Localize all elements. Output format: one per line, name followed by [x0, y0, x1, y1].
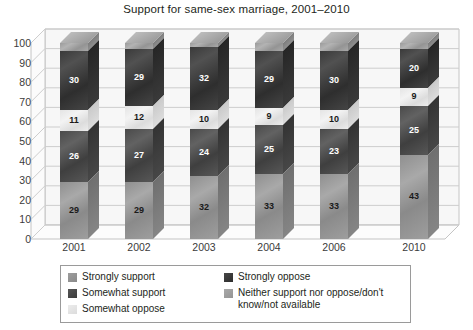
bar-segment[interactable]: 25	[400, 106, 428, 155]
bar-segment[interactable]: 29	[60, 182, 88, 239]
y-axis-tick-label: 30	[5, 175, 31, 186]
x-axis-tick-label: 2002	[109, 241, 169, 253]
bar-value-label: 29	[125, 49, 153, 106]
bar-value-label: 9	[255, 108, 283, 126]
bar-segment-side-face	[218, 165, 229, 239]
bar-segment[interactable]: 43	[400, 155, 428, 239]
chart-legend: Strongly supportStrongly opposeSomewhat …	[60, 265, 411, 323]
bar-value-label: 29	[125, 182, 153, 239]
legend-item-label: Somewhat oppose	[82, 303, 165, 315]
x-axis-tick-label: 2004	[239, 241, 299, 253]
y-axis-ticks: 0102030405060708090100	[0, 0, 31, 262]
bar-value-label: 23	[320, 129, 348, 174]
bar-value-label: 30	[60, 51, 88, 110]
legend-swatch-icon	[224, 273, 233, 282]
bar-segment[interactable]: 11	[60, 110, 88, 132]
bar-value-label: 33	[255, 174, 283, 239]
bar-value-label: 33	[320, 174, 348, 239]
bar-segment-side-face	[218, 36, 229, 110]
bar-segment[interactable]: 27	[125, 129, 153, 182]
legend-swatch-icon	[68, 305, 77, 314]
bar-segment[interactable]: 29	[255, 51, 283, 108]
legend-item-label: Somewhat support	[82, 287, 165, 299]
bar-segment[interactable]: 9	[400, 88, 428, 106]
bar-segment-side-face	[348, 163, 359, 239]
x-axis-tick-label: 2006	[304, 241, 364, 253]
bar-segment[interactable]: 26	[60, 131, 88, 182]
x-axis-tick-label: 2001	[44, 241, 104, 253]
bar-segment-front-face	[255, 43, 283, 51]
bar-segment[interactable]: 9	[255, 108, 283, 126]
bar-segment-side-face	[153, 171, 164, 239]
legend-item[interactable]: Strongly support	[68, 271, 220, 287]
y-axis-tick-label: 90	[5, 58, 31, 69]
y-axis-tick-label: 0	[5, 234, 31, 245]
y-axis-tick-label: 20	[5, 195, 31, 206]
bar-value-label: 25	[400, 106, 428, 155]
legend-item[interactable]: Somewhat support	[68, 287, 220, 303]
bar-segment[interactable]: 30	[60, 51, 88, 110]
bar-segment-side-face	[428, 144, 439, 239]
bar-value-label: 12	[125, 106, 153, 130]
bar-segment-front-face	[320, 43, 348, 51]
bar-segment-side-face	[283, 163, 294, 239]
y-axis-tick-label: 60	[5, 116, 31, 127]
bar-column[interactable]: 32241032	[190, 0, 230, 262]
bar-column[interactable]: 3325929	[255, 0, 295, 262]
bar-segment[interactable]: 25	[255, 125, 283, 174]
legend-item[interactable]: Somewhat oppose	[68, 303, 220, 319]
y-axis-tick-label: 70	[5, 97, 31, 108]
bar-column[interactable]: 4325920	[400, 0, 440, 262]
bar-segment[interactable]: 33	[255, 174, 283, 239]
bar-value-label: 43	[400, 155, 428, 239]
legend-item-label: Neither support nor oppose/don't know/no…	[238, 287, 404, 310]
bar-segment[interactable]: 29	[125, 49, 153, 106]
bar-column[interactable]: 33231030	[320, 0, 360, 262]
bar-segment[interactable]: 32	[190, 176, 218, 239]
bar-segment[interactable]: 23	[320, 129, 348, 174]
bar-segment[interactable]: 30	[320, 51, 348, 110]
bar-value-label: 29	[255, 51, 283, 108]
bar-value-label: 32	[190, 47, 218, 110]
x-axis-tick-label: 2010	[384, 241, 444, 253]
legend-item-label: Strongly oppose	[238, 271, 310, 283]
bar-segment[interactable]	[320, 43, 348, 51]
bar-value-label: 25	[255, 125, 283, 174]
bar-value-label: 27	[125, 129, 153, 182]
bar-segment-front-face	[60, 43, 88, 51]
bar-value-label: 32	[190, 176, 218, 239]
y-axis-tick-label: 50	[5, 136, 31, 147]
plot-area: 0102030405060708090100 29261130292712293…	[0, 0, 473, 262]
bar-value-label: 10	[320, 110, 348, 130]
bar-segment[interactable]: 32	[190, 47, 218, 110]
legend-swatch-icon	[68, 289, 77, 298]
bar-value-label: 26	[60, 131, 88, 182]
bar-segment[interactable]: 29	[125, 182, 153, 239]
bar-segment[interactable]	[60, 43, 88, 51]
bar-value-label: 24	[190, 129, 218, 176]
bar-segment[interactable]: 10	[320, 110, 348, 130]
legend-swatch-icon	[68, 273, 77, 282]
bar-value-label: 30	[320, 51, 348, 110]
legend-item[interactable]: Neither support nor oppose/don't know/no…	[224, 287, 404, 319]
bar-segment[interactable]: 10	[190, 110, 218, 130]
legend-item[interactable]: Strongly oppose	[224, 271, 404, 287]
bar-value-label: 29	[60, 182, 88, 239]
legend-item-label: Strongly support	[82, 271, 155, 283]
bar-segment[interactable]: 20	[400, 49, 428, 88]
bar-segment[interactable]: 24	[190, 129, 218, 176]
y-axis-tick-label: 10	[5, 214, 31, 225]
bar-value-label: 20	[400, 49, 428, 88]
y-axis-tick-label: 40	[5, 156, 31, 167]
legend-swatch-icon	[224, 289, 233, 298]
chart-container: Support for same-sex marriage, 2001–2010…	[0, 0, 473, 330]
bar-segment[interactable]	[255, 43, 283, 51]
bar-column[interactable]: 29261130	[60, 0, 100, 262]
y-axis-tick-label: 100	[5, 38, 31, 49]
bar-column[interactable]: 29271229	[125, 0, 165, 262]
bar-segment[interactable]: 33	[320, 174, 348, 239]
x-axis-tick-label: 2003	[174, 241, 234, 253]
bar-segment-side-face	[88, 171, 99, 239]
bar-segment[interactable]: 12	[125, 106, 153, 130]
y-axis-tick-label: 80	[5, 77, 31, 88]
